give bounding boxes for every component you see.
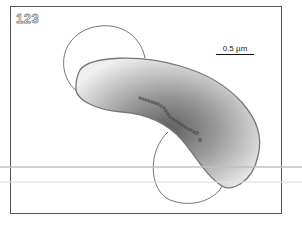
scale-bar-line — [216, 54, 254, 55]
scan-artifact-line — [0, 166, 302, 168]
scan-artifact-line — [0, 181, 302, 183]
crescent-cell — [76, 58, 260, 188]
scale-bar: 0.5 µm — [216, 44, 254, 55]
panel-label: 123 — [16, 11, 39, 26]
scale-bar-label: 0.5 µm — [216, 44, 254, 53]
micrograph-illustration — [0, 0, 302, 226]
